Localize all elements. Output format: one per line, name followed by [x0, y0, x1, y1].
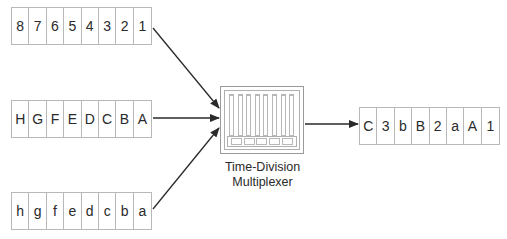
stream-cell: C: [360, 108, 377, 144]
multiplexer-slot-tab: [273, 94, 276, 96]
multiplexer-slot: [255, 94, 260, 136]
stream-cell: e: [64, 193, 81, 229]
input-stream-lowercase: hgfedcba: [11, 192, 152, 230]
stream-cell: b: [395, 108, 412, 144]
multiplexer-tray-cell: [282, 138, 293, 145]
stream-cell: F: [47, 101, 64, 137]
multiplexer-slot: [246, 94, 251, 136]
multiplexer-slot-tab: [256, 94, 259, 96]
stream-cell: a: [447, 108, 464, 144]
multiplexer-slot: [281, 94, 286, 136]
stream-cell: 1: [482, 108, 499, 144]
multiplexer-slot: [238, 94, 243, 136]
multiplexer-label-line2: Multiplexer: [210, 175, 315, 190]
multiplexer-slot: [289, 94, 294, 136]
stream-cell: C: [99, 101, 116, 137]
stream-cell: H: [12, 101, 29, 137]
stream-cell: c: [99, 193, 116, 229]
multiplexer-tray-cell: [231, 138, 242, 145]
multiplexer-tray-cell: [256, 138, 267, 145]
multiplexer-slot: [263, 94, 268, 136]
stream-cell: A: [134, 101, 151, 137]
input-stream-uppercase: HGFEDCBA: [11, 100, 152, 138]
input-stream-numbers: 87654321: [11, 7, 152, 45]
stream-cell: 2: [116, 8, 133, 44]
multiplexer-slot: [272, 94, 277, 136]
stream-cell: E: [64, 101, 81, 137]
stream-cell: G: [29, 101, 46, 137]
stream-cell: 2: [430, 108, 447, 144]
arrow-numbers-to-mux: [153, 28, 219, 108]
multiplexer-label-line1: Time-Division: [210, 160, 315, 175]
multiplexer-slot-tab: [290, 94, 293, 96]
stream-cell: b: [116, 193, 133, 229]
stream-cell: h: [12, 193, 29, 229]
stream-cell: B: [116, 101, 133, 137]
stream-cell: 5: [64, 8, 81, 44]
stream-cell: g: [29, 193, 46, 229]
stream-cell: D: [82, 101, 99, 137]
stream-cell: 3: [99, 8, 116, 44]
multiplexer-slot-tab: [239, 94, 242, 96]
stream-cell: 3: [377, 108, 394, 144]
stream-cell: d: [82, 193, 99, 229]
multiplexer-slot: [229, 94, 234, 136]
stream-cell: f: [47, 193, 64, 229]
multiplexer-frame: [224, 90, 300, 150]
multiplexer-tray: [227, 136, 297, 147]
stream-cell: B: [412, 108, 429, 144]
stream-cell: a: [134, 193, 151, 229]
multiplexer-device: [220, 86, 304, 154]
stream-cell: 4: [82, 8, 99, 44]
stream-cell: 1: [134, 8, 151, 44]
stream-cell: 7: [29, 8, 46, 44]
stream-cell: A: [464, 108, 481, 144]
multiplexer-slot-tab: [247, 94, 250, 96]
output-stream: C3bB2aA1: [359, 107, 500, 145]
multiplexer-slot-tab: [264, 94, 267, 96]
multiplexer-label: Time-Division Multiplexer: [210, 160, 315, 190]
multiplexer-tray-cell: [244, 138, 255, 145]
multiplexer-slot-tab: [282, 94, 285, 96]
multiplexer-slot-tab: [230, 94, 233, 96]
stream-cell: 8: [12, 8, 29, 44]
stream-cell: 6: [47, 8, 64, 44]
multiplexer-tray-cell: [269, 138, 280, 145]
